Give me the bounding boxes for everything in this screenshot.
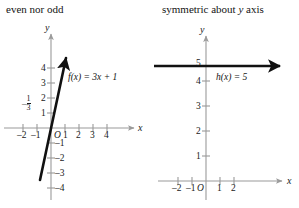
x-tick-label-left-1: –1 (31, 130, 41, 140)
x-axis-label-right: x (287, 175, 291, 186)
y-axis-label-right: y (200, 24, 204, 35)
y-tick-label-left-n4: –4 (55, 183, 65, 193)
x-axis-label-left: x (138, 122, 142, 133)
y-tick-label-left-n1: –1 (55, 138, 65, 148)
y-axis-label-left: y (45, 22, 49, 33)
y-tick-label-left-3: 3 (41, 78, 46, 88)
fraction-denominator: 3 (27, 104, 31, 111)
fraction-numerator: 1 (27, 95, 31, 102)
function-label-f: f(x) = 3x + 1 (68, 72, 117, 82)
y-tick-label-right-1: 1 (196, 151, 201, 161)
y-tick-label-right-5: 5 (196, 58, 201, 68)
x-tick-label-left-0: –2 (17, 130, 27, 140)
y-tick-label-left-1: 1 (41, 108, 46, 118)
x-tick-label-right-1: –1 (186, 183, 196, 193)
plot-area-right (150, 0, 299, 208)
figure-even-nor-odd: even nor odd (0, 0, 150, 208)
y-tick-label-left-n3: –3 (55, 168, 65, 178)
y-tick-label-left-n2: –2 (55, 153, 65, 163)
x-tick-label-right-2: 1 (217, 183, 222, 193)
y-tick-label-right-3: 3 (196, 101, 201, 111)
y-tick-label-right-4: 4 (196, 76, 201, 86)
y-tick-label-left-2: 2 (41, 93, 46, 103)
figure-symmetric-about-y-axis: symmetric about y axis (150, 0, 299, 208)
x-tick-label-left-5: 4 (104, 130, 109, 140)
x-tick-label-right-3: 2 (231, 183, 236, 193)
x-tick-label-left-3: 2 (76, 130, 81, 140)
origin-label-right: O (197, 183, 204, 193)
y-tick-label-right-2: 2 (196, 126, 201, 136)
x-tick-label-right-0: –2 (172, 183, 182, 193)
y-tick-label-left-4: 4 (41, 63, 46, 73)
plot-svg-right (150, 0, 299, 208)
function-label-h: h(x) = 5 (216, 72, 247, 82)
x-tick-label-left-4: 3 (90, 130, 95, 140)
x-intercept-fraction-label: – 1 3 (22, 95, 31, 111)
